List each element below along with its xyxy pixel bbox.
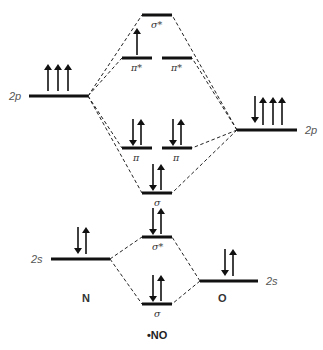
label-pi-star-left: π* bbox=[130, 62, 142, 73]
label-atom-n: N bbox=[82, 292, 90, 304]
energy-levels bbox=[29, 15, 297, 304]
label-sigma-star-2s: σ* bbox=[152, 241, 163, 252]
label-pi-right: π bbox=[172, 152, 180, 163]
label-n-2p: 2p bbox=[8, 90, 21, 102]
label-molecule: •NO bbox=[147, 329, 168, 341]
labels: σ* π* π* 2p 2p π π σ σ* 2s 2s σ N O •NO bbox=[8, 19, 317, 341]
label-atom-o: O bbox=[218, 292, 227, 304]
label-o-2p: 2p bbox=[304, 124, 317, 136]
label-o-2s: 2s bbox=[265, 275, 278, 287]
mo-diagram-no: σ* π* π* 2p 2p π π σ σ* 2s 2s σ N O •NO bbox=[0, 0, 323, 350]
label-sigma-star-2p: σ* bbox=[151, 19, 162, 30]
label-n-2s: 2s bbox=[30, 253, 43, 265]
label-pi-star-right: π* bbox=[170, 62, 182, 73]
label-sigma-2s: σ bbox=[154, 308, 161, 319]
label-pi-left: π bbox=[132, 152, 140, 163]
label-sigma-2p: σ bbox=[154, 197, 161, 208]
